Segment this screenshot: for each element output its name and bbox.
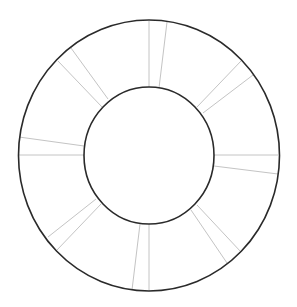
ring-diagram — [0, 0, 297, 307]
inner-ring — [84, 87, 214, 224]
